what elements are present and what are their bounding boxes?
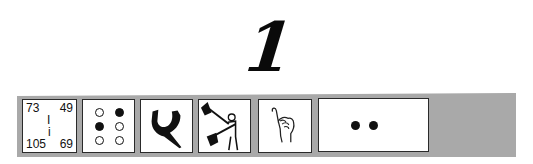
- numeral-one: 1: [243, 14, 284, 80]
- braille-dot-1: [95, 108, 104, 117]
- braille-dot-4: [115, 108, 124, 117]
- braille-dot-5: [115, 122, 124, 131]
- number-codes-cell: 73 49 I i 105 69: [22, 99, 77, 153]
- code-bottom-right: 69: [60, 138, 73, 150]
- braille-dot-2: [95, 122, 104, 131]
- code-top-right: 49: [60, 102, 73, 114]
- braille-dot-6: [115, 136, 124, 145]
- braille-dot-3: [95, 136, 104, 145]
- asl-hand-sign-icon: [259, 100, 311, 152]
- braille-cell: [82, 99, 135, 153]
- semaphore-cell: [198, 99, 251, 153]
- hebrew-glyph-cell: [140, 99, 193, 153]
- letter-lowercase: i: [48, 126, 51, 138]
- hebrew-letter-icon: [141, 100, 192, 152]
- code-bottom-left: 105: [26, 138, 46, 150]
- semaphore-flag-figure-icon: [199, 100, 250, 152]
- morse-dot-icon: [351, 121, 360, 130]
- sign-language-cell: [258, 99, 312, 153]
- code-top-left: 73: [26, 102, 39, 114]
- braille-cell-icon: [93, 106, 127, 148]
- morse-dot-icon: [369, 121, 378, 130]
- morse-code-cell: [318, 98, 429, 152]
